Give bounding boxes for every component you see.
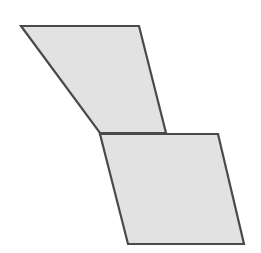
shapes-illustration	[0, 0, 261, 253]
figure-canvas	[0, 0, 261, 253]
